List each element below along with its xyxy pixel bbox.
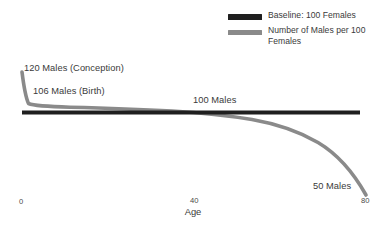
legend-item-baseline: Baseline: 100 Females (228, 10, 384, 20)
x-axis-title: Age (0, 206, 386, 217)
legend-swatch-baseline-icon (228, 14, 262, 20)
annotation-100-males: 100 Males (193, 95, 236, 106)
x-axis-tick-40: 40 (190, 196, 198, 205)
x-axis-tick-0: 0 (19, 197, 23, 206)
sex-ratio-line-chart: Baseline: 100 Females Number of Males pe… (0, 0, 386, 234)
legend-item-males: Number of Males per 100 Females (228, 25, 384, 46)
annotation-conception: 120 Males (Conception) (24, 63, 124, 74)
chart-legend: Baseline: 100 Females Number of Males pe… (228, 10, 384, 51)
legend-swatch-males-icon (228, 30, 262, 35)
legend-label-males: Number of Males per 100 Females (268, 25, 380, 46)
annotation-birth: 106 Males (Birth) (33, 86, 105, 97)
legend-label-baseline: Baseline: 100 Females (268, 10, 356, 20)
annotation-50-males: 50 Males (313, 181, 351, 192)
x-axis-tick-80: 80 (361, 196, 369, 205)
